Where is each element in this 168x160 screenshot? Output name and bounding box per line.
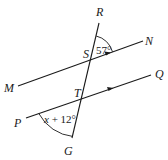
geometry-diagram: R S N M T Q P G 57° x + 12° [0,0,168,160]
angle-label-PTG: x + 12° [43,113,76,125]
point-label-T: T [74,86,82,100]
transversal-line-RG [72,23,99,138]
point-label-N: N [144,34,154,48]
point-label-M: M [3,81,15,95]
point-label-R: R [95,5,104,19]
point-label-G: G [64,144,73,158]
angle-label-RSN: 57° [96,44,111,56]
parallel-arrow-icon-PQ [107,87,114,91]
angle-expression-rest: + 12° [49,113,76,125]
line-PQ [26,75,151,118]
point-label-S: S [83,47,89,61]
point-label-Q: Q [155,67,164,81]
point-label-P: P [13,116,22,130]
line-MN [18,41,143,86]
